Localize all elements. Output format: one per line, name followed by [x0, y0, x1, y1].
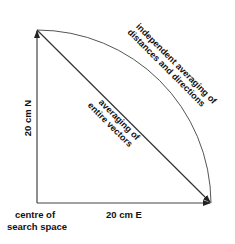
origin-label-line2: search space [7, 221, 67, 232]
arc-label-line2: distances and directions [126, 27, 208, 109]
east-axis-label: 20 cm E [106, 209, 142, 220]
vector-averaging-diagram: centre of search space 20 cm E 20 cm N a… [0, 0, 235, 244]
arc-label-line1: independent averaging of [134, 21, 219, 106]
origin-label-line1: centre of [15, 209, 56, 220]
north-axis-label: 20 cm N [22, 100, 33, 137]
